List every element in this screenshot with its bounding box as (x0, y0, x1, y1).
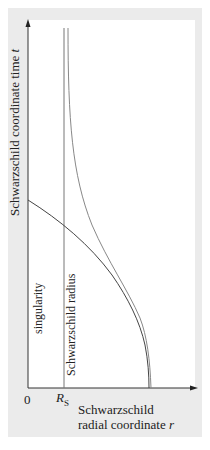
y-axis-arrow-icon (26, 19, 31, 27)
asymptotic-worldline (68, 28, 151, 388)
y-axis-label: Schwarzschild coordinate time t (7, 20, 23, 216)
x-axis-arrow-icon (190, 386, 198, 391)
spacetime-diagram (0, 0, 210, 450)
schwarzschild-radius-label: Schwarzschild radius (64, 274, 79, 376)
rs-tick-label: RS (56, 390, 69, 408)
origin-tick-label: 0 (24, 392, 31, 408)
singularity-label: singularity (31, 283, 46, 334)
x-axis-label: Schwarzschild radial coordinate r (78, 402, 174, 432)
singularity-worldline (28, 200, 149, 388)
